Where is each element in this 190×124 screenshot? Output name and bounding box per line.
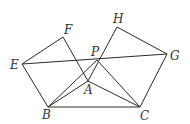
- segment-EB: [22, 64, 48, 107]
- segment-PC: [97, 60, 140, 107]
- segments: [22, 27, 167, 107]
- label-H: H: [112, 12, 124, 26]
- segment-AC: [88, 81, 140, 107]
- geometry-diagram: E F P H G A B C: [0, 0, 190, 124]
- segment-EF: [22, 37, 63, 64]
- label-A: A: [83, 83, 93, 97]
- segment-HG: [117, 27, 167, 54]
- label-C: C: [140, 109, 149, 123]
- label-E: E: [9, 58, 19, 72]
- segment-BA: [48, 81, 88, 107]
- label-P: P: [90, 45, 100, 59]
- label-G: G: [170, 49, 180, 63]
- label-B: B: [41, 108, 51, 122]
- diagram-canvas: E F P H G A B C: [0, 0, 190, 124]
- segment-GC: [140, 54, 167, 107]
- point-labels: E F P H G A B C: [9, 12, 180, 123]
- segment-FA: [63, 37, 88, 81]
- label-F: F: [63, 23, 73, 37]
